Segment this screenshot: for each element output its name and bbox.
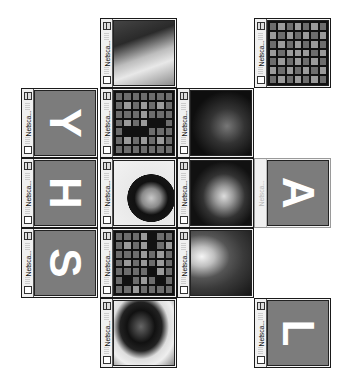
title-bar[interactable]: Netsca... — [101, 229, 113, 297]
grid-cell — [141, 128, 147, 135]
netscape-window[interactable]: Netsca... — [100, 158, 177, 228]
grid-cell — [270, 50, 276, 57]
grid-cell — [295, 58, 301, 65]
grid-cell — [133, 120, 139, 127]
grid-cell — [311, 32, 317, 39]
grid-cell — [303, 50, 309, 57]
letter-panel: A — [267, 160, 329, 226]
grid-cell — [320, 32, 326, 39]
grid-cell — [133, 286, 139, 293]
grid-cell — [149, 120, 155, 127]
grid-cell — [149, 111, 155, 118]
pixel-grid — [113, 90, 175, 156]
netscape-window[interactable]: Netsca... — [100, 18, 177, 88]
window-title: Netsca... — [256, 306, 267, 362]
grid-cell — [133, 242, 139, 249]
netscape-window[interactable]: Netsca... — [100, 228, 177, 298]
grid-cell — [166, 233, 172, 240]
netscape-window[interactable]: Netsca... — [177, 228, 254, 298]
netscape-window[interactable]: Netsca... — [177, 88, 254, 158]
grid-cell — [124, 251, 130, 258]
grid-cell — [295, 32, 301, 39]
grid-cell — [133, 260, 139, 267]
grid-cell — [124, 277, 130, 284]
grid-cell — [124, 146, 130, 153]
grid-cell — [157, 102, 163, 109]
grid-cell — [278, 58, 284, 65]
grid-cell — [149, 102, 155, 109]
title-bar[interactable]: Netsca... — [255, 19, 267, 87]
grid-cell — [278, 76, 284, 83]
title-bar[interactable]: Netsca... — [101, 19, 113, 87]
netscape-window[interactable]: Netsca... — [177, 158, 254, 228]
photo-face-with-cap — [113, 20, 175, 86]
grid-cell — [295, 23, 301, 30]
grid-cell — [303, 23, 309, 30]
photo-leopard-print-hat — [190, 90, 252, 156]
grid-cell — [157, 146, 163, 153]
grid-cell — [166, 277, 172, 284]
netscape-window[interactable]: Netsca...A — [254, 158, 331, 228]
netscape-window[interactable]: Netsca...H — [21, 158, 98, 228]
grid-cell — [157, 268, 163, 275]
grid-cell — [141, 277, 147, 284]
grid-cell — [133, 93, 139, 100]
title-bar[interactable]: Netsca... — [101, 89, 113, 157]
grid-cell — [116, 277, 122, 284]
grid-cell — [166, 146, 172, 153]
pixel-grid — [267, 20, 329, 86]
grid-cell — [157, 242, 163, 249]
grid-cell — [124, 102, 130, 109]
netscape-window[interactable]: Netsca... — [100, 298, 177, 368]
grid-cell — [157, 233, 163, 240]
grid-cell — [149, 286, 155, 293]
grid-cell — [116, 137, 122, 144]
grid-cell — [311, 76, 317, 83]
title-bar[interactable]: Netsca... — [22, 89, 34, 157]
netscape-window[interactable]: Netsca...L — [254, 298, 331, 368]
title-bar[interactable]: Netsca... — [101, 159, 113, 227]
netscape-window[interactable]: Netsca...S — [21, 228, 98, 298]
title-bar[interactable]: Netsca... — [255, 159, 267, 227]
grid-cell — [157, 277, 163, 284]
window-title: Netsca... — [102, 236, 113, 292]
grid-cell — [320, 50, 326, 57]
letter-panel: L — [267, 300, 329, 366]
grid-cell — [149, 251, 155, 258]
grid-cell — [124, 233, 130, 240]
grid-cell — [303, 41, 309, 48]
window-title: Netsca... — [102, 306, 113, 362]
grid-cell — [116, 286, 122, 293]
grid-cell — [133, 137, 139, 144]
grid-cell — [116, 242, 122, 249]
title-bar[interactable]: Netsca... — [255, 299, 267, 367]
grid-cell — [295, 50, 301, 57]
window-title: Netsca... — [256, 166, 267, 222]
grid-cell — [311, 23, 317, 30]
grid-cell — [141, 233, 147, 240]
grid-cell — [278, 32, 284, 39]
window-title: Netsca... — [23, 166, 34, 222]
netscape-window[interactable]: Netsca...Y — [21, 88, 98, 158]
title-bar[interactable]: Netsca... — [178, 229, 190, 297]
grid-cell — [157, 111, 163, 118]
grid-cell — [141, 251, 147, 258]
title-bar[interactable]: Netsca... — [22, 159, 34, 227]
grid-cell — [141, 268, 147, 275]
grid-cell — [166, 286, 172, 293]
letter-glyph: Y — [43, 108, 87, 137]
grid-cell — [141, 120, 147, 127]
grid-cell — [133, 268, 139, 275]
pixel-grid — [113, 230, 175, 296]
grid-cell — [133, 251, 139, 258]
title-bar[interactable]: Netsca... — [178, 89, 190, 157]
netscape-window[interactable]: Netsca... — [254, 18, 331, 88]
title-bar[interactable]: Netsca... — [101, 299, 113, 367]
title-bar[interactable]: Netsca... — [22, 229, 34, 297]
netscape-window[interactable]: Netsca... — [100, 88, 177, 158]
grid-cell — [270, 41, 276, 48]
title-bar[interactable]: Netsca... — [178, 159, 190, 227]
window-title: Netsca... — [179, 166, 190, 222]
window-title: Netsca... — [179, 96, 190, 152]
grid-cell — [116, 146, 122, 153]
